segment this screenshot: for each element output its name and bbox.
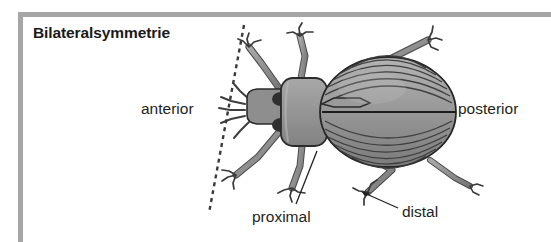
label-distal: distal: [402, 203, 438, 221]
dashed-symmetry-axis: [209, 25, 244, 213]
label-posterior: posterior: [458, 100, 518, 118]
leg-front-right: [222, 132, 279, 189]
leg-front-left: [238, 33, 279, 88]
label-proximal: proximal: [252, 208, 311, 226]
beetle-illustration: [0, 0, 551, 242]
leg-far-hind-right: [430, 160, 483, 195]
label-anterior: anterior: [141, 100, 194, 118]
distal-leader-line: [362, 192, 398, 208]
leg-mid-left: [287, 23, 313, 84]
beetle-elytra: [320, 56, 456, 169]
figure-root: Bilateralsymmetrie: [0, 0, 551, 242]
